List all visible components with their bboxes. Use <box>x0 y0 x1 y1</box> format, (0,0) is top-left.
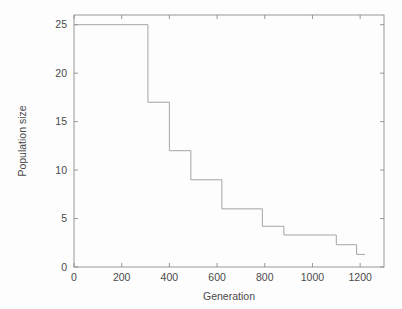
x-tick-label: 200 <box>113 271 131 283</box>
y-axis-title: Population size <box>16 105 28 176</box>
y-tick-label: 0 <box>61 261 67 273</box>
x-tick-label: 1000 <box>301 271 325 283</box>
data-series-population-size <box>74 25 365 255</box>
x-tick-label: 400 <box>161 271 179 283</box>
x-tick-label: 800 <box>256 271 274 283</box>
plot-frame <box>74 15 384 267</box>
x-axis-tick-labels: 020040060080010001200 <box>71 271 372 283</box>
figure-container: 020040060080010001200 0510152025 Generat… <box>0 0 402 309</box>
step-chart: 020040060080010001200 0510152025 Generat… <box>0 0 402 309</box>
x-axis-title: Generation <box>203 290 255 302</box>
x-tick-label: 600 <box>208 271 226 283</box>
y-tick-label: 10 <box>55 164 67 176</box>
y-axis-ticks-right <box>380 25 384 267</box>
y-tick-label: 20 <box>55 67 67 79</box>
x-axis-ticks <box>74 263 360 267</box>
y-axis-ticks <box>74 25 78 267</box>
y-axis-tick-labels: 0510152025 <box>55 18 67 272</box>
x-tick-label: 0 <box>71 271 77 283</box>
x-axis-ticks-top <box>74 15 360 19</box>
y-tick-label: 15 <box>55 115 67 127</box>
y-tick-label: 5 <box>61 212 67 224</box>
y-tick-label: 25 <box>55 18 67 30</box>
x-tick-label: 1200 <box>348 271 372 283</box>
